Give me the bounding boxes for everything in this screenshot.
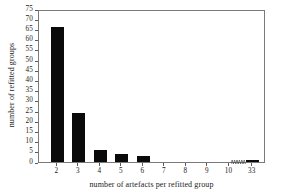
y-tick-label: 35 [25, 86, 33, 94]
y-axis-title: number of refitted groups [7, 10, 17, 160]
bar [246, 160, 259, 162]
y-axis: 051015202530354045505560657075 [0, 10, 38, 163]
x-tick-label: 8 [184, 167, 188, 176]
x-tick-label: 2 [54, 167, 58, 176]
x-tick-mark [163, 163, 164, 166]
x-axis-title: number of artefacts per refitted group [38, 180, 265, 190]
axis-break-zigzag [231, 157, 245, 167]
y-tick-label: 0 [29, 158, 33, 166]
y-tick-label: 45 [25, 66, 33, 74]
x-tick-mark [77, 163, 78, 166]
x-tick-label: 4 [98, 167, 102, 176]
bar [51, 27, 64, 162]
plot-area [39, 11, 264, 162]
x-tick-mark [56, 163, 57, 166]
x-tick-label: 6 [141, 167, 145, 176]
x-tick-mark [99, 163, 100, 166]
y-tick-label: 15 [25, 127, 33, 135]
x-tick-label: 10 [225, 167, 232, 176]
y-tick-label: 50 [25, 56, 33, 64]
x-tick-label: 7 [162, 167, 166, 176]
x-tick-label: 5 [119, 167, 123, 176]
y-tick-label: 55 [25, 45, 33, 53]
x-tick-label: 9 [205, 167, 209, 176]
x-tick-mark [228, 163, 229, 166]
y-tick-label: 75 [25, 5, 33, 13]
bar [115, 154, 128, 162]
bar [137, 156, 150, 162]
x-tick-mark [142, 163, 143, 166]
plot-frame [38, 10, 265, 163]
x-tick-mark [206, 163, 207, 166]
bar [72, 113, 85, 162]
y-tick-label: 40 [25, 76, 33, 84]
chart-figure: 051015202530354045505560657075 234567891… [0, 0, 286, 196]
x-tick-mark [120, 163, 121, 166]
x-tick-mark [251, 163, 252, 166]
x-tick-label: 3 [76, 167, 80, 176]
y-tick-label: 10 [25, 137, 33, 145]
y-tick-label: 60 [25, 35, 33, 43]
y-tick-label: 65 [25, 25, 33, 33]
y-tick-label: 20 [25, 117, 33, 125]
y-tick-label: 5 [29, 147, 33, 155]
bar [94, 150, 107, 162]
y-tick-label: 30 [25, 96, 33, 104]
y-tick-label: 70 [25, 15, 33, 23]
x-tick-label: 33 [248, 167, 255, 176]
x-tick-mark [185, 163, 186, 166]
y-tick-label: 25 [25, 107, 33, 115]
